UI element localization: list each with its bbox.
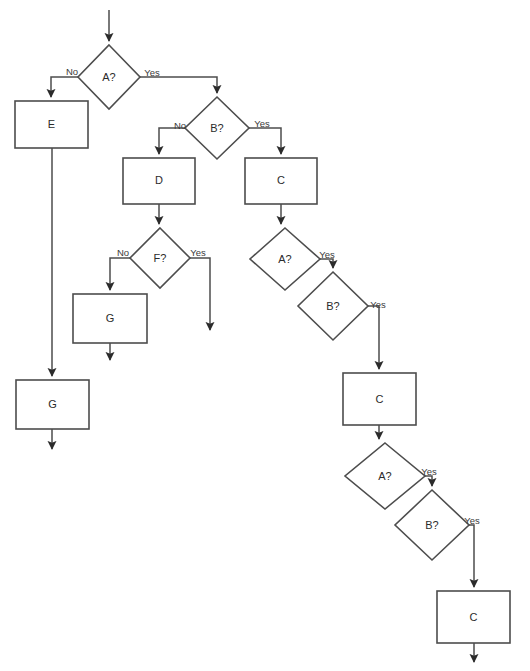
node-label: C <box>470 611 478 623</box>
edge-label-b3-yes: Yes <box>464 515 480 526</box>
edge-a1-yes-to-b1 <box>140 77 217 93</box>
node-process-c2[interactable]: C <box>343 373 416 425</box>
node-label: B? <box>425 519 438 531</box>
node-process-g1[interactable]: G <box>73 294 147 343</box>
edge-label-a3-yes: Yes <box>421 466 437 477</box>
node-label: A? <box>102 71 115 83</box>
node-decision-f1[interactable]: F? <box>130 228 190 288</box>
node-process-c1[interactable]: C <box>245 158 317 204</box>
node-label: G <box>106 312 115 324</box>
node-decision-a2[interactable]: A? <box>250 228 320 290</box>
edge-b3-yes-to-c3 <box>469 525 474 587</box>
edge-a3-yes-to-b3 <box>425 476 432 486</box>
node-label: A? <box>278 253 291 265</box>
edge-b1-no-to-d <box>159 128 185 154</box>
node-process-c3[interactable]: C <box>437 591 510 643</box>
edge-label-a1-no: No <box>66 66 78 77</box>
edge-label-a2-yes: Yes <box>319 249 335 260</box>
flowchart-canvas: A? E B? D C <box>0 0 530 671</box>
edge-b2-yes-to-c2 <box>368 306 379 369</box>
edge-a1-no-to-e <box>51 77 78 97</box>
edge-label-b1-yes: Yes <box>254 118 270 129</box>
node-decision-a1[interactable]: A? <box>78 45 140 109</box>
node-decision-b3[interactable]: B? <box>395 490 469 560</box>
node-label: B? <box>210 122 223 134</box>
edge-label-b1-no: No <box>174 120 186 131</box>
edge-label-f1-yes: Yes <box>190 247 206 258</box>
node-decision-a3[interactable]: A? <box>345 443 425 509</box>
node-label: D <box>155 174 163 186</box>
node-label: A? <box>378 470 391 482</box>
flowchart-svg: A? E B? D C <box>0 0 530 671</box>
node-decision-b1[interactable]: B? <box>185 97 249 159</box>
node-decision-b2[interactable]: B? <box>298 272 368 340</box>
node-process-e1[interactable]: E <box>15 101 88 148</box>
node-label: G <box>48 398 57 410</box>
nodes-layer: A? E B? D C <box>15 45 510 643</box>
edge-label-b2-yes: Yes <box>370 299 386 310</box>
edge-a2-yes-to-b2 <box>320 259 333 268</box>
node-label: E <box>48 118 55 130</box>
edge-b1-yes-to-c1 <box>249 128 281 154</box>
node-label: C <box>376 393 384 405</box>
node-label: F? <box>154 252 167 264</box>
edge-f1-no-to-g1 <box>110 258 130 290</box>
edge-f1-yes-to-end <box>190 258 210 330</box>
node-label: C <box>277 174 285 186</box>
edge-label-a1-yes: Yes <box>144 67 160 78</box>
node-process-d1[interactable]: D <box>123 158 195 204</box>
edge-label-f1-no: No <box>117 247 129 258</box>
node-label: B? <box>326 300 339 312</box>
node-process-g2[interactable]: G <box>16 380 89 429</box>
